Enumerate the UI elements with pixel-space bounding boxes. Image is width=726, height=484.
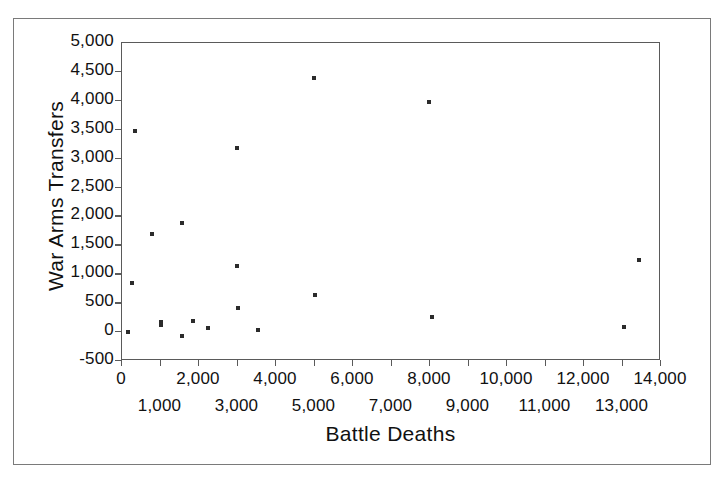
x-axis-tick-mark: [121, 360, 122, 366]
x-axis-tick-mark: [198, 360, 199, 366]
x-axis-tick-mark: [352, 360, 353, 366]
x-axis-tick-label: 5,000: [292, 396, 336, 416]
x-axis-tick-label: 3,000: [215, 396, 259, 416]
x-axis-tick-label: 2,000: [176, 369, 220, 389]
x-axis-tick-label: 6,000: [330, 369, 374, 389]
x-axis-tick-label: 10,000: [479, 369, 532, 389]
x-axis-tick-label: 11,000: [519, 396, 571, 416]
x-axis-tick-mark: [583, 360, 584, 366]
x-axis-tick-label: 7,000: [369, 396, 413, 416]
x-axis-tick-label: 1,000: [138, 396, 182, 416]
y-axis-tick-label: 3,500: [26, 118, 114, 138]
y-axis-tick-label: 4,500: [26, 60, 114, 80]
x-axis-tick-mark: [237, 360, 238, 366]
x-axis-tick-mark: [314, 360, 315, 366]
y-axis-tick-label: 5,000: [26, 31, 114, 51]
x-axis-tick-mark: [660, 360, 661, 366]
x-axis-tick-mark: [160, 360, 161, 366]
scatter-point: [235, 264, 239, 268]
scatter-point: [430, 315, 434, 319]
scatter-plot-figure: War Arms Transfers 5,0004,5004,0003,5003…: [0, 0, 726, 484]
x-axis-tick-label: 4,000: [253, 369, 297, 389]
scatter-point: [637, 258, 641, 262]
y-axis-tick-label: 0: [26, 320, 114, 340]
x-axis-tick-mark: [275, 360, 276, 366]
scatter-point: [191, 319, 195, 323]
scatter-points-layer: [122, 43, 659, 359]
scatter-point: [159, 320, 163, 324]
scatter-point: [180, 334, 184, 338]
y-axis-tick-label: 500: [26, 291, 114, 311]
x-axis-title: Battle Deaths: [121, 422, 660, 446]
scatter-point: [206, 326, 210, 330]
scatter-point: [236, 306, 240, 310]
y-axis-tick-label: 3,000: [26, 147, 114, 167]
scatter-point: [622, 325, 626, 329]
x-axis-tick-label: 0: [116, 369, 126, 389]
plot-area: [121, 42, 660, 360]
y-axis-tick-label: 2,000: [26, 204, 114, 224]
x-axis-tick-mark: [622, 360, 623, 366]
y-axis-tick-label: 1,000: [26, 262, 114, 282]
y-axis-tick-label: 2,500: [26, 176, 114, 196]
scatter-point: [312, 76, 316, 80]
scatter-point: [150, 232, 154, 236]
scatter-point: [313, 293, 317, 297]
scatter-point: [256, 328, 260, 332]
x-axis-tick-label: 12,000: [556, 369, 609, 389]
y-axis-tick-label: 4,000: [26, 89, 114, 109]
y-axis-tick-label: 1,500: [26, 233, 114, 253]
scatter-point: [133, 129, 137, 133]
scatter-point: [180, 221, 184, 225]
x-axis-tick-mark: [468, 360, 469, 366]
scatter-point: [235, 146, 239, 150]
scatter-point: [427, 100, 431, 104]
x-axis-tick-mark: [391, 360, 392, 366]
scatter-point: [126, 330, 130, 334]
x-axis-tick-mark: [506, 360, 507, 366]
x-axis-tick-label: 8,000: [407, 369, 451, 389]
y-axis-tick-label: -500: [26, 349, 114, 369]
x-axis-tick-label: 14,000: [633, 369, 686, 389]
x-axis-tick-mark: [429, 360, 430, 366]
x-axis-tick-label: 9,000: [446, 396, 490, 416]
x-axis-tick-label: 13,000: [595, 396, 648, 416]
x-axis-tick-mark: [545, 360, 546, 366]
scatter-point: [130, 281, 134, 285]
